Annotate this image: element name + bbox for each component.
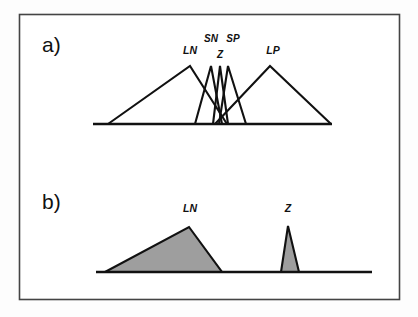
label-sn-a: SN bbox=[204, 33, 219, 44]
figure-container: a) LN SN Z SP LP b) LN Z bbox=[0, 0, 418, 317]
label-ln-a: LN bbox=[183, 44, 197, 56]
label-z-b: Z bbox=[284, 202, 292, 214]
label-lp-a: LP bbox=[266, 44, 280, 56]
fuzzy-membership-figure: a) LN SN Z SP LP b) LN Z bbox=[0, 0, 418, 317]
label-sp-a: SP bbox=[226, 33, 240, 44]
panel-b-label: b) bbox=[42, 190, 61, 213]
label-z-a: Z bbox=[216, 49, 224, 60]
label-ln-b: LN bbox=[183, 202, 197, 214]
panel-a-label: a) bbox=[42, 33, 61, 56]
